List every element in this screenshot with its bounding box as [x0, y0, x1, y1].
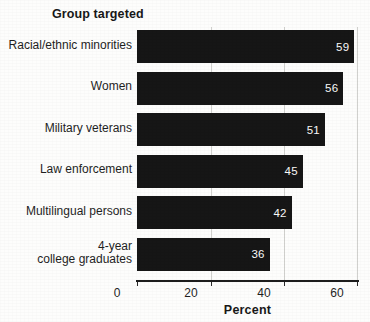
category-label: Multilingual persons	[0, 205, 132, 219]
bar-value-label: 51	[307, 124, 320, 136]
category-label: Racial/ethnic minorities	[0, 39, 132, 53]
bar-value-label: 36	[251, 248, 264, 260]
plot-area: 595651454236	[137, 27, 358, 281]
bar	[137, 238, 270, 271]
x-axis-line	[136, 280, 359, 282]
bar-value-label: 45	[285, 165, 298, 177]
category-label: Law enforcement	[0, 163, 132, 177]
bar-row: 56	[137, 72, 343, 105]
x-axis-title: Percent	[137, 303, 358, 317]
bar	[137, 113, 325, 146]
bar-row: 45	[137, 155, 303, 188]
x-tick-mark-0	[137, 282, 138, 286]
category-label: Women	[0, 80, 132, 94]
bar-row: 36	[137, 238, 270, 271]
bar	[137, 196, 292, 229]
x-tick-label-40: 40	[244, 286, 284, 300]
x-tick-label-60: 60	[317, 286, 357, 300]
bar-row: 59	[137, 30, 354, 63]
bar-row: 42	[137, 196, 292, 229]
bar-value-label: 56	[325, 82, 338, 94]
category-label: Military veterans	[0, 122, 132, 136]
x-tick-mark-40	[284, 282, 285, 286]
x-tick-label-20: 20	[171, 286, 211, 300]
gridline-60	[357, 27, 358, 281]
x-tick-mark-60	[357, 282, 358, 286]
bar-value-label: 42	[273, 207, 286, 219]
bar	[137, 30, 354, 63]
bar-value-label: 59	[336, 41, 349, 53]
x-tick-label-0: 0	[97, 286, 137, 300]
bar	[137, 72, 343, 105]
chart-group-title: Group targeted	[52, 7, 144, 21]
bar	[137, 155, 303, 188]
bar-row: 51	[137, 113, 325, 146]
bar-chart-figure: Group targeted 595651454236 0 20 40 60 P…	[0, 0, 370, 322]
category-label: 4-year college graduates	[0, 240, 132, 267]
